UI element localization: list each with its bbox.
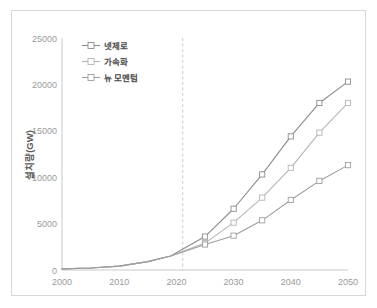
data-point-marker[interactable] (231, 233, 236, 238)
legend-marker-0 (88, 43, 94, 49)
data-point-marker[interactable] (288, 165, 293, 170)
legend-item-1[interactable]: 가속화 (82, 57, 128, 67)
series-line-2 (62, 165, 348, 269)
x-tick-label-2050: 2050 (338, 277, 358, 287)
y-tick-label-10000: 10000 (32, 173, 57, 183)
chart-figure: 25000 20000 15000 10000 5000 0 2000 2010… (0, 0, 377, 308)
data-point-marker[interactable] (345, 100, 350, 105)
y-tick-label-5000: 5000 (37, 219, 57, 229)
series-2 (62, 163, 351, 269)
x-tick-label-2010: 2010 (109, 277, 129, 287)
data-point-marker[interactable] (231, 206, 236, 211)
legend-label-1: 가속화 (104, 57, 128, 67)
series-layer (62, 79, 351, 269)
data-point-marker[interactable] (231, 220, 236, 225)
data-point-marker[interactable] (317, 130, 322, 135)
data-point-marker[interactable] (260, 218, 265, 223)
x-tick-label-2020: 2020 (166, 277, 186, 287)
data-point-marker[interactable] (317, 100, 322, 105)
data-point-marker[interactable] (345, 163, 350, 168)
legend-item-2[interactable]: 뉴 모멘텀 (82, 73, 138, 83)
x-tick-label-2030: 2030 (224, 277, 244, 287)
y-tick-label-25000: 25000 (32, 34, 57, 44)
data-point-marker[interactable] (317, 178, 322, 183)
y-axis-title: 설치량(GW) (24, 130, 35, 180)
x-tick-label-2040: 2040 (281, 277, 301, 287)
x-tick-label-2000: 2000 (52, 277, 72, 287)
y-tick-label-15000: 15000 (32, 126, 57, 136)
chart-legend: 넷제로 가속화 뉴 모멘텀 (82, 41, 138, 83)
data-point-marker[interactable] (260, 172, 265, 177)
data-point-marker[interactable] (288, 197, 293, 202)
legend-marker-1 (88, 59, 94, 65)
legend-label-2: 뉴 모멘텀 (104, 73, 138, 83)
legend-item-0[interactable]: 넷제로 (82, 41, 128, 51)
legend-marker-2 (88, 75, 94, 81)
legend-label-0: 넷제로 (104, 41, 128, 51)
data-point-marker[interactable] (202, 242, 207, 247)
data-point-marker[interactable] (345, 79, 350, 84)
data-point-marker[interactable] (202, 234, 207, 239)
y-tick-label-20000: 20000 (32, 80, 57, 90)
data-point-marker[interactable] (260, 195, 265, 200)
y-tick-label-0: 0 (52, 266, 57, 276)
data-point-marker[interactable] (288, 134, 293, 139)
line-chart: 25000 20000 15000 10000 5000 0 2000 2010… (0, 0, 377, 308)
